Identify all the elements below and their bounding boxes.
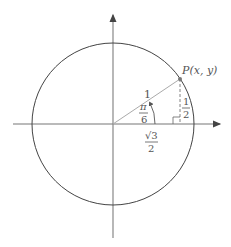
y-coord-numerator: 1 [183, 96, 189, 107]
angle-numerator: π [139, 101, 147, 112]
x-coord-denominator: 2 [148, 143, 154, 154]
y-coord-denominator: 2 [183, 109, 189, 120]
angle-arc [150, 103, 155, 124]
radius-label: 1 [144, 88, 151, 101]
right-angle-mark [173, 117, 180, 124]
angle-denominator: 6 [141, 114, 147, 125]
x-coord-numerator: √3 [145, 130, 158, 141]
point-p [178, 77, 182, 81]
unit-circle-diagram: P(x, y) 1 π 6 √3 2 1 2 [0, 0, 231, 247]
point-label: P(x, y) [181, 64, 217, 77]
